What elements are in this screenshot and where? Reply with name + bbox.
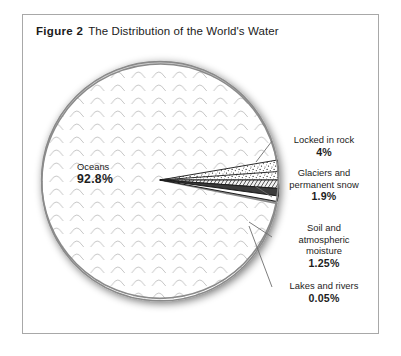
slice-label-glaciers-value: 1.9% <box>272 191 376 203</box>
slice-label-locked-in-rock: Locked in rock 4% <box>272 134 376 158</box>
slice-label-glaciers-name-line1: Glaciers and <box>272 167 376 179</box>
slice-label-oceans: Oceans 92.8% <box>77 161 113 185</box>
slice-label-soil: Soil and atmospheric moisture 1.25% <box>272 222 376 269</box>
slice-label-soil-name-line3: moisture <box>272 245 376 257</box>
figure-panel: Figure 2The Distribution of the World's … <box>0 0 401 356</box>
slice-label-glaciers: Glaciers and permanent snow 1.9% <box>272 167 376 203</box>
slice-label-locked-in-rock-value: 4% <box>272 147 376 159</box>
slice-label-soil-name-line2: atmospheric <box>272 234 376 246</box>
slice-label-locked-in-rock-name: Locked in rock <box>272 134 376 146</box>
slice-label-lakes-value: 0.05% <box>272 293 376 305</box>
slice-label-oceans-name: Oceans <box>77 161 109 172</box>
slice-label-lakes: Lakes and rivers 0.05% <box>272 280 376 304</box>
slice-label-soil-value: 1.25% <box>272 258 376 270</box>
slice-label-glaciers-name-line2: permanent snow <box>272 179 376 191</box>
slice-label-oceans-value: 92.8% <box>77 173 113 185</box>
slice-label-lakes-name: Lakes and rivers <box>272 280 376 292</box>
slice-label-soil-name-line1: Soil and <box>272 222 376 234</box>
